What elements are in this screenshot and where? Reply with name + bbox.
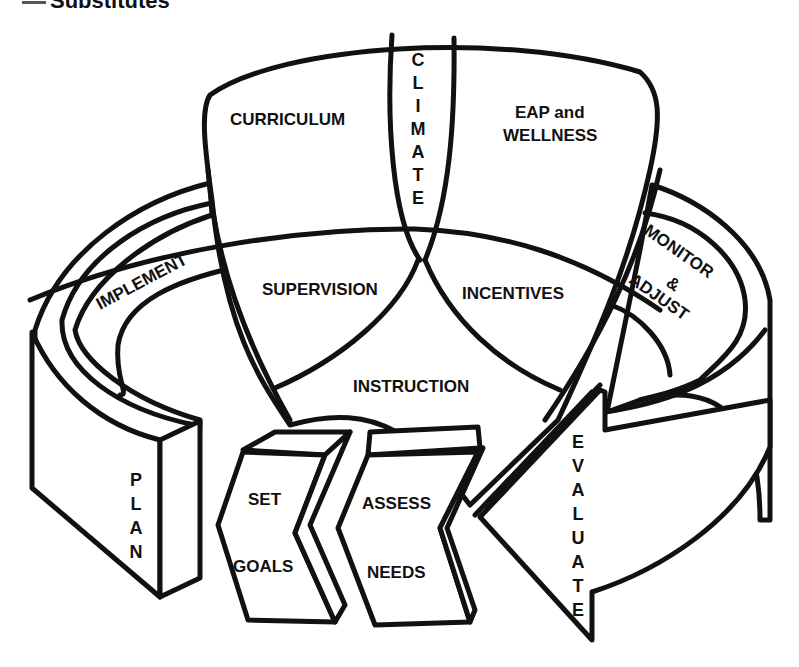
svg-text:E: E bbox=[572, 432, 584, 452]
svg-text:V: V bbox=[572, 456, 584, 476]
svg-text:U: U bbox=[572, 528, 585, 548]
set-goals-label-line2: GOALS bbox=[233, 557, 293, 576]
eap-label-line1: EAP and bbox=[515, 103, 585, 122]
svg-text:L: L bbox=[573, 504, 584, 524]
plan-block bbox=[32, 332, 200, 597]
eap-label-line2: WELLNESS bbox=[503, 126, 597, 145]
svg-text:P: P bbox=[130, 470, 142, 490]
assess-needs-label-line2: NEEDS bbox=[367, 563, 426, 582]
svg-text:M: M bbox=[411, 119, 426, 139]
climate-label: C L I M A T E bbox=[411, 50, 426, 208]
svg-text:T: T bbox=[413, 165, 424, 185]
svg-text:L: L bbox=[131, 494, 142, 514]
svg-text:E: E bbox=[572, 600, 584, 620]
svg-text:N: N bbox=[130, 542, 143, 562]
supervision-label: SUPERVISION bbox=[262, 280, 378, 299]
svg-text:A: A bbox=[572, 552, 585, 572]
curriculum-label: CURRICULUM bbox=[230, 110, 345, 129]
svg-text:A: A bbox=[572, 480, 585, 500]
incentives-label: INCENTIVES bbox=[462, 284, 564, 303]
instruction-label: INSTRUCTION bbox=[353, 377, 469, 396]
svg-text:L: L bbox=[413, 73, 424, 93]
svg-text:C: C bbox=[412, 50, 425, 70]
svg-text:A: A bbox=[130, 518, 143, 538]
assess-needs-label-line1: ASSESS bbox=[362, 494, 431, 513]
svg-text:A: A bbox=[412, 142, 425, 162]
cycle-diagram: CURRICULUM EAP and WELLNESS C L I M A T … bbox=[0, 0, 799, 667]
set-goals-block bbox=[218, 432, 350, 622]
svg-text:I: I bbox=[415, 96, 420, 116]
svg-text:E: E bbox=[412, 188, 424, 208]
assess-needs-block bbox=[338, 427, 483, 625]
set-goals-label-line1: SET bbox=[248, 490, 282, 509]
svg-text:T: T bbox=[573, 576, 584, 596]
